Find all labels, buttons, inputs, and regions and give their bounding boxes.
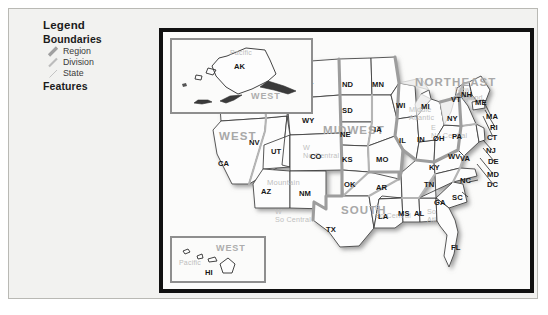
hawaii-inset[interactable]: WEST Pacific HI bbox=[170, 236, 266, 283]
state-label-mo: MO bbox=[376, 155, 388, 164]
legend-item-state-label: State bbox=[63, 68, 84, 79]
legend-item-region[interactable]: Region bbox=[47, 46, 143, 57]
state-label-co: CO bbox=[310, 152, 322, 161]
state-label-oh: OH bbox=[433, 134, 445, 143]
division-label-mountain: Mountain bbox=[267, 178, 300, 187]
division-boundary-swatch-icon bbox=[47, 57, 60, 68]
state-label-nh: NH bbox=[461, 90, 472, 99]
state-label-nv: NV bbox=[249, 138, 260, 147]
state-label-nc: NC bbox=[460, 176, 471, 185]
state-label-la: LA bbox=[378, 212, 388, 221]
state-label-wv: WV bbox=[448, 152, 460, 161]
state-label-ri: RI bbox=[490, 123, 498, 132]
state-label-ca: CA bbox=[218, 159, 229, 168]
map-card: Legend Boundaries Region Division State … bbox=[8, 8, 538, 299]
state-label-mi: MI bbox=[421, 102, 430, 111]
state-label-va: VA bbox=[460, 154, 470, 163]
division-label-west-south-central: WSo Central bbox=[275, 208, 311, 224]
state-label-ut: UT bbox=[271, 147, 281, 156]
state-label-nj: NJ bbox=[486, 146, 496, 155]
division-label-south-atlantic: SoAtl bbox=[427, 208, 436, 224]
state-label-nd: ND bbox=[342, 80, 353, 89]
state-label-az: AZ bbox=[261, 187, 271, 196]
state-label-wi: WI bbox=[396, 101, 405, 110]
state-label-ky: KY bbox=[429, 163, 440, 172]
state-label-dc: DC bbox=[487, 180, 498, 189]
state-label-vt: VT bbox=[451, 95, 461, 104]
state-label-sc: SC bbox=[452, 193, 463, 202]
state-label-ia: IA bbox=[374, 125, 382, 134]
alaska-region-label: WEST bbox=[251, 91, 281, 101]
legend-item-division[interactable]: Division bbox=[47, 57, 143, 68]
screenshot-root: Legend Boundaries Region Division State … bbox=[0, 0, 548, 315]
legend-item-division-label: Division bbox=[63, 57, 94, 68]
state-label-mn: MN bbox=[372, 80, 384, 89]
legend-boundaries-heading: Boundaries bbox=[43, 33, 143, 46]
state-boundary-swatch-icon bbox=[47, 68, 60, 79]
legend: Legend Boundaries Region Division State … bbox=[43, 19, 143, 92]
hawaii-region-label: WEST bbox=[216, 243, 246, 253]
legend-features-heading: Features bbox=[43, 80, 143, 93]
state-label-pa: PA bbox=[452, 132, 462, 141]
state-label-md: MD bbox=[487, 170, 499, 179]
state-label-tx: TX bbox=[326, 225, 336, 234]
map-frame[interactable]: WEST MIDWEST SOUTH NORTHEAST Pacific Mou… bbox=[159, 28, 534, 293]
region-boundary-swatch-icon bbox=[47, 46, 60, 57]
state-label-wy: WY bbox=[302, 116, 314, 125]
state-label-ks: KS bbox=[342, 155, 353, 164]
legend-title: Legend bbox=[43, 19, 143, 32]
state-label-in: IN bbox=[417, 135, 425, 144]
state-label-ms: MS bbox=[398, 209, 410, 218]
state-label-ok: OK bbox=[344, 180, 356, 189]
state-label-al: AL bbox=[414, 209, 424, 218]
state-label-sd: SD bbox=[342, 106, 353, 115]
alaska-state-label: AK bbox=[234, 62, 245, 71]
state-label-nm: NM bbox=[299, 189, 311, 198]
state-label-ct: CT bbox=[487, 133, 497, 142]
state-label-tn: TN bbox=[424, 180, 434, 189]
state-label-ny: NY bbox=[447, 114, 458, 123]
state-label-ma: MA bbox=[486, 112, 498, 121]
state-label-me: ME bbox=[475, 98, 487, 107]
hawaii-division-label: Pacific bbox=[179, 259, 201, 266]
hawaii-state-label: HI bbox=[205, 268, 213, 277]
state-label-il: IL bbox=[399, 136, 406, 145]
state-label-fl: FL bbox=[451, 243, 460, 252]
state-label-ga: GA bbox=[434, 198, 446, 207]
alaska-inset[interactable]: Pacific AK WEST bbox=[170, 38, 313, 114]
state-label-ne: NE bbox=[340, 130, 351, 139]
state-label-ar: AR bbox=[376, 183, 387, 192]
legend-item-state[interactable]: State bbox=[47, 68, 143, 79]
alaska-division-label: Pacific bbox=[230, 49, 252, 56]
legend-item-region-label: Region bbox=[63, 46, 91, 57]
state-label-de: DE bbox=[488, 157, 499, 166]
